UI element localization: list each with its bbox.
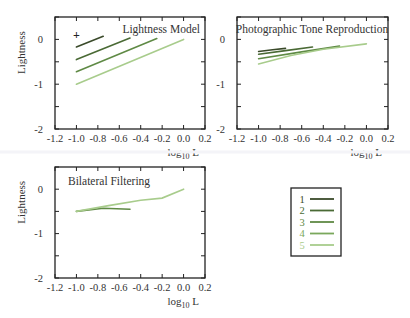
chart-figure: -1.2-1.0-0.8-0.6-0.4-0.20.00.20-1-2Light… [0, 0, 410, 318]
x-tick-label: -0.8 [90, 282, 107, 293]
chart-title: Bilateral Filtering [68, 175, 150, 188]
x-tick-label: -0.8 [90, 133, 107, 144]
y-tick-label: 0 [38, 34, 43, 45]
y-tick-label: -1 [34, 228, 43, 239]
y-tick-label: -1 [34, 79, 43, 90]
x-tick-label: 0.2 [198, 133, 211, 144]
x-tick-label: -0.4 [315, 133, 332, 144]
legend-label: 5 [299, 240, 304, 251]
x-tick-label: -0.6 [111, 133, 128, 144]
legend-label: 2 [299, 205, 304, 216]
x-tick-label: -1.0 [68, 282, 85, 293]
x-tick-label: -1.0 [68, 133, 85, 144]
series-line-5 [76, 189, 183, 211]
y-tick-label: 0 [38, 184, 43, 195]
chart-panel-1: -1.2-1.0-0.8-0.6-0.4-0.20.00.20-1-2Light… [15, 17, 212, 161]
legend-label: 1 [299, 194, 304, 205]
y-tick-label: -2 [216, 124, 225, 135]
y-tick-label: 0 [220, 34, 225, 45]
x-tick-label: 0.0 [177, 133, 190, 144]
x-tick-label: -1.2 [47, 282, 64, 293]
y-tick-label: -1 [216, 79, 225, 90]
y-tick-label: -2 [34, 273, 43, 284]
plus-marker-icon: + [73, 28, 80, 42]
x-tick-label: -0.4 [132, 133, 149, 144]
legend-label: 4 [299, 228, 305, 239]
series-line-1 [76, 36, 103, 47]
chart-title: Photographic Tone Reproduction [236, 23, 389, 36]
legend-label: 3 [299, 217, 304, 228]
chart-panel-2: -1.2-1.0-0.8-0.6-0.4-0.20.00.20-1-2Photo… [216, 17, 394, 161]
y-tick-label: -2 [34, 124, 43, 135]
x-tick-label: -1.0 [250, 133, 267, 144]
x-axis-label: log10 L [167, 295, 199, 310]
x-tick-label: -0.4 [132, 282, 149, 293]
x-tick-label: -0.2 [337, 133, 354, 144]
y-axis-label: Lightness [15, 31, 27, 74]
x-tick-label: 0.2 [381, 133, 394, 144]
chart-title: Lightness Model [122, 23, 200, 36]
x-tick-label: -1.2 [47, 133, 64, 144]
chart-panel-3: -1.2-1.0-0.8-0.6-0.4-0.20.00.20-1-2Bilat… [15, 167, 212, 310]
series-line-5 [76, 39, 183, 84]
x-tick-label: -0.2 [154, 282, 171, 293]
x-tick-label: -0.6 [111, 282, 128, 293]
x-tick-label: 0.0 [177, 282, 190, 293]
x-tick-label: 0.2 [198, 282, 211, 293]
legend: 12345 [291, 188, 341, 256]
x-tick-label: -0.6 [293, 133, 310, 144]
x-tick-label: -0.2 [154, 133, 171, 144]
x-tick-label: 0.0 [360, 133, 373, 144]
x-tick-label: -0.8 [272, 133, 289, 144]
series-line-2 [76, 38, 130, 60]
x-tick-label: -1.2 [229, 133, 246, 144]
y-axis-label: Lightness [15, 181, 27, 224]
